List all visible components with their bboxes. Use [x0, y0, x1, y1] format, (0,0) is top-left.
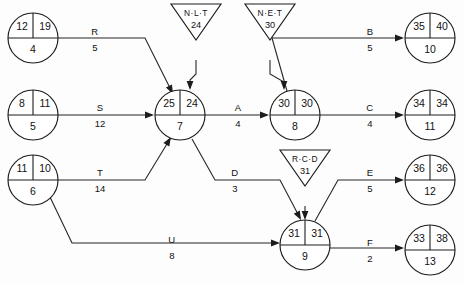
- arrow-into-10-head: [395, 35, 404, 42]
- event-node-5[interactable]: 8115: [8, 90, 58, 140]
- constraint-value-7: 24: [191, 20, 201, 30]
- activity-duration-U: 8: [169, 250, 174, 261]
- activity-duration-E: 5: [367, 183, 372, 194]
- activity-R: R5: [91, 26, 98, 53]
- activity-label-E: E: [367, 167, 374, 178]
- constraint-rcd: R·C·D31: [280, 150, 330, 186]
- node-late-time-10: 40: [436, 20, 448, 32]
- node-early-time-10: 35: [413, 20, 425, 32]
- arrow-into-7-from-nlt-head: [187, 81, 194, 90]
- node-late-time-9: 31: [311, 227, 323, 239]
- node-late-time-12: 36: [436, 162, 448, 174]
- activity-duration-S: 12: [95, 118, 106, 129]
- node-late-time-7: 24: [186, 97, 198, 109]
- node-late-time-11: 34: [436, 97, 448, 109]
- node-early-time-9: 31: [288, 227, 300, 239]
- event-node-13[interactable]: 333813: [405, 225, 455, 275]
- network-canvas: N·L·T24N·E·T30R·C·D31 121948115111062524…: [0, 0, 464, 284]
- activity-label-T: T: [97, 167, 103, 178]
- activity-duration-D: 3: [232, 183, 237, 194]
- activity-U: U8: [168, 234, 175, 261]
- constraint-name-9: R·C·D: [292, 154, 318, 164]
- activity-duration-C: 4: [367, 118, 372, 129]
- arrow-into-9-from-6: [271, 240, 280, 247]
- activity-label-D: D: [231, 167, 238, 178]
- node-early-time-8: 30: [278, 97, 290, 109]
- edge-6-9: [50, 197, 278, 243]
- activity-labels-layer: R5S12T14U8A4D3B5C4E5F2: [91, 26, 373, 264]
- arrow-into-7-from-5: [145, 112, 154, 119]
- arrow-into-8-from-7-head: [260, 112, 269, 119]
- event-node-6[interactable]: 11106: [8, 155, 58, 205]
- node-id-5: 5: [30, 120, 36, 132]
- activity-F: F2: [367, 237, 373, 264]
- event-node-12[interactable]: 363612: [405, 155, 455, 205]
- arrowheads-layer: [145, 35, 404, 252]
- node-early-time-5: 8: [19, 97, 25, 109]
- arrow-into-11: [395, 112, 404, 119]
- activity-B: B5: [367, 26, 374, 53]
- node-early-time-13: 33: [413, 232, 425, 244]
- node-id-6: 6: [30, 185, 36, 197]
- arrow-into-13: [395, 245, 404, 252]
- node-early-time-4: 12: [16, 20, 28, 32]
- node-late-time-6: 10: [39, 162, 51, 174]
- constraint-value-8: 30: [265, 20, 275, 30]
- activity-duration-T: 14: [95, 183, 106, 194]
- activity-label-C: C: [366, 102, 373, 113]
- node-early-time-11: 34: [413, 97, 425, 109]
- edge-8-10: [272, 38, 402, 91]
- edges-layer: [50, 38, 402, 248]
- arrow-into-7-from-5-head: [145, 112, 154, 119]
- activity-duration-A: 4: [235, 118, 240, 129]
- node-early-time-12: 36: [413, 162, 425, 174]
- activity-label-F: F: [367, 237, 373, 248]
- arrow-into-7-from-nlt: [187, 81, 194, 90]
- constraint-net: N·E·T30: [245, 4, 295, 40]
- network-diagram: N·L·T24N·E·T30R·C·D31 121948115111062524…: [0, 0, 464, 284]
- node-id-7: 7: [177, 120, 183, 132]
- event-node-7[interactable]: 25247: [155, 90, 205, 140]
- activity-duration-F: 2: [367, 253, 372, 264]
- activity-label-B: B: [367, 26, 374, 37]
- node-early-time-7: 25: [163, 97, 175, 109]
- constraint-name-8: N·E·T: [258, 8, 283, 18]
- activity-label-R: R: [91, 26, 98, 37]
- node-early-time-6: 11: [17, 162, 28, 174]
- arrow-into-9-from-6-head: [271, 240, 280, 247]
- node-late-time-5: 11: [40, 97, 51, 109]
- arrow-into-12-head: [395, 177, 404, 184]
- node-id-13: 13: [424, 255, 436, 267]
- event-node-9[interactable]: 31319: [280, 220, 330, 270]
- event-nodes-layer: 1219481151110625247303083131935401034341…: [8, 13, 455, 275]
- event-node-10[interactable]: 354010: [405, 13, 455, 63]
- constraint-value-9: 31: [300, 166, 310, 176]
- activity-duration-B: 5: [367, 42, 372, 53]
- event-node-4[interactable]: 12194: [8, 13, 58, 63]
- arrow-into-11-head: [395, 112, 404, 119]
- arrow-into-8-from-7: [260, 112, 269, 119]
- activity-label-S: S: [97, 102, 104, 113]
- arrow-into-9-from-rcd-head: [302, 211, 309, 220]
- activity-duration-R: 5: [92, 42, 97, 53]
- event-node-11[interactable]: 343411: [405, 90, 455, 140]
- edge-9-12: [315, 180, 402, 221]
- event-node-8[interactable]: 30308: [270, 90, 320, 140]
- node-id-11: 11: [425, 120, 436, 132]
- activity-label-U: U: [168, 234, 175, 245]
- node-late-time-4: 19: [39, 20, 51, 32]
- node-id-8: 8: [292, 120, 298, 132]
- node-late-time-8: 30: [301, 97, 313, 109]
- arrow-into-13-head: [395, 245, 404, 252]
- node-id-9: 9: [302, 250, 308, 262]
- constraint-name-7: N·L·T: [184, 8, 208, 18]
- node-late-time-13: 38: [436, 232, 448, 244]
- arrow-into-10: [395, 35, 404, 42]
- activity-label-A: A: [235, 102, 242, 113]
- edge-6-7: [58, 139, 170, 180]
- constraint-nlt: N·L·T24: [171, 4, 221, 40]
- node-id-10: 10: [424, 43, 436, 55]
- node-id-12: 12: [424, 185, 436, 197]
- node-id-4: 4: [30, 43, 36, 55]
- arrow-into-9-from-rcd: [302, 211, 309, 220]
